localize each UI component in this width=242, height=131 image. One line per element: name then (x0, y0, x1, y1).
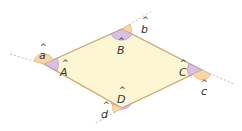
label-d: d (101, 108, 109, 121)
label-B: B (117, 44, 125, 57)
label-a: a (39, 49, 46, 62)
rhombus-diagram: ^ A ^ B ^ C ^ D ^ a ^ b ^ c ^ d (0, 0, 242, 131)
label-C: C (179, 66, 187, 79)
label-D: D (117, 93, 125, 106)
label-A: A (59, 66, 68, 79)
label-c: c (201, 85, 207, 98)
label-b: b (141, 23, 148, 36)
